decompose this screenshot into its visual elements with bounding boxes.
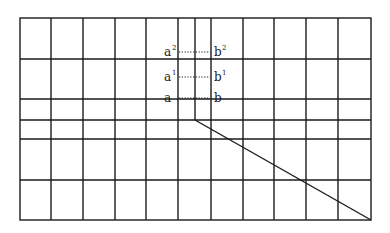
- grid-diagram: a2a1ab2b1b: [0, 0, 390, 233]
- label-b: b: [214, 91, 222, 105]
- label-a: a: [164, 70, 171, 84]
- diagonal-line: [195, 120, 371, 220]
- label-b: b: [214, 45, 222, 59]
- label-superscript: 1: [222, 69, 226, 77]
- label-superscript: 2: [172, 44, 176, 52]
- label-superscript: 1: [172, 69, 176, 77]
- label-superscript: 2: [222, 44, 226, 52]
- label-b: b: [214, 70, 222, 84]
- label-a: a: [164, 45, 171, 59]
- label-a: a: [164, 91, 171, 105]
